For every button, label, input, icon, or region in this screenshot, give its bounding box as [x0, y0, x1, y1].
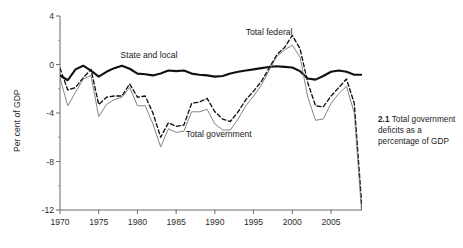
- x-tick-label: 2005: [321, 217, 340, 227]
- y-tick-label: 0: [49, 60, 54, 70]
- figure-container: 40-4-8-12 197019751980198519901995200020…: [0, 0, 463, 248]
- figure-caption: 2.1 Total government deficits as a perce…: [378, 114, 460, 148]
- y-tick-label: 4: [49, 11, 54, 21]
- y-tick-label: -12: [42, 205, 55, 215]
- y-tick-label: -8: [46, 157, 54, 167]
- series-annotation-state-and-local: State and local: [121, 50, 178, 60]
- y-tick-label: -4: [46, 108, 54, 118]
- x-tick-label: 1970: [50, 217, 69, 227]
- axes-group: [60, 16, 362, 210]
- series-line-total-federal: [60, 35, 362, 208]
- y-tick-group: 40-4-8-12: [42, 11, 60, 215]
- figure-caption-number: 2.1: [378, 115, 390, 124]
- y-axis-title: Per cent of GDP: [12, 89, 22, 152]
- series-group: [60, 35, 362, 217]
- series-annotation-total-federal: Total federal: [246, 27, 293, 37]
- x-tick-label: 2000: [283, 217, 302, 227]
- x-tick-label: 1975: [89, 217, 108, 227]
- series-line-state-and-local: [60, 66, 362, 81]
- x-tick-group: 19701975198019851990199520002005: [50, 210, 340, 227]
- x-tick-label: 1985: [167, 217, 186, 227]
- x-tick-label: 1995: [244, 217, 263, 227]
- annotation-group: State and localTotal federalTotal govern…: [121, 27, 293, 139]
- series-annotation-total-government: Total government: [186, 129, 253, 139]
- figure-caption-text: Total government deficits as a percentag…: [378, 115, 455, 146]
- x-tick-label: 1990: [205, 217, 224, 227]
- x-tick-label: 1980: [128, 217, 147, 227]
